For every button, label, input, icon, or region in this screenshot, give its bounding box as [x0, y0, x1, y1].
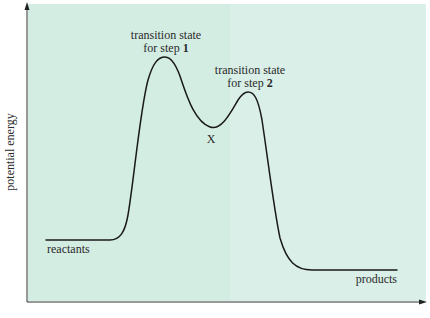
ts2-label-line2: for step 2 — [227, 76, 272, 90]
y-axis-label: potential energy — [3, 113, 17, 190]
products-label: products — [356, 272, 398, 286]
ts2-label-line1: transition state — [215, 63, 285, 77]
ts1-label-line2: for step 1 — [143, 41, 188, 55]
intermediate-label: X — [207, 132, 216, 146]
reactants-label: reactants — [47, 242, 90, 256]
energy-profile-diagram: potential energy transition state for st… — [0, 0, 430, 318]
ts1-label-line1: transition state — [131, 28, 201, 42]
plot-background-fade — [230, 4, 426, 301]
